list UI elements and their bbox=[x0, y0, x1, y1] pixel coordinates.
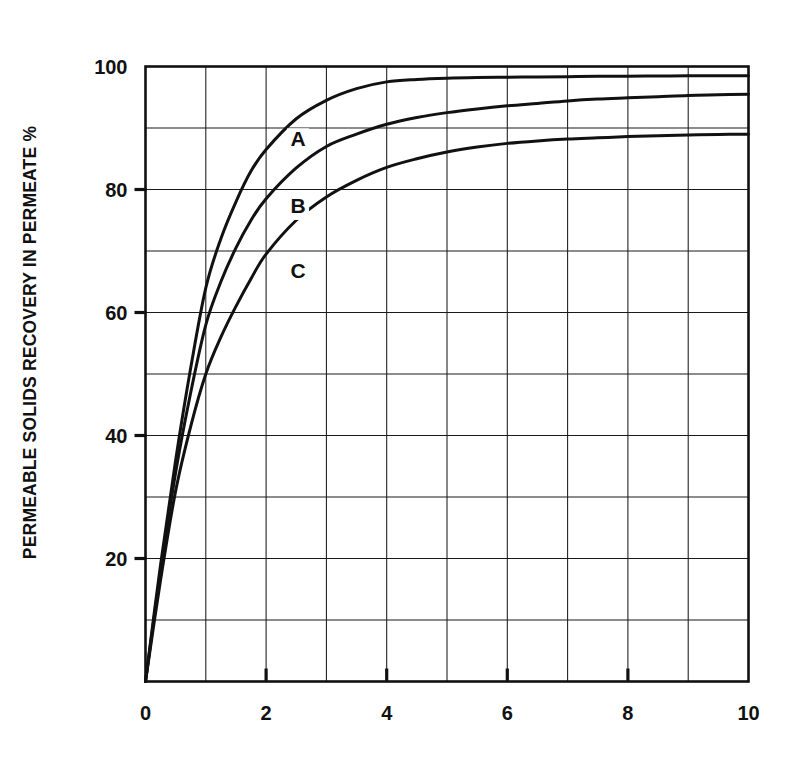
curve-label-c: C bbox=[290, 259, 305, 282]
x-tick-label: 2 bbox=[261, 702, 272, 724]
y-tick-label: 20 bbox=[105, 548, 127, 570]
chart-figure: PERMEABLE SOLIDS RECOVERY IN PERMEATE % … bbox=[0, 0, 792, 769]
x-tick-label: 10 bbox=[737, 702, 759, 724]
x-tick-label: 6 bbox=[502, 702, 513, 724]
x-tick-label: 4 bbox=[381, 702, 393, 724]
x-tick-label: 0 bbox=[140, 702, 151, 724]
y-axis-tick-labels: 20406080100 bbox=[94, 56, 127, 570]
line-chart-plot: ABC 20406080100 0246810 bbox=[0, 0, 792, 769]
curve-label-a: A bbox=[290, 127, 305, 150]
curve-label-b: B bbox=[290, 194, 305, 217]
x-tick-label: 8 bbox=[622, 702, 633, 724]
y-tick-label: 80 bbox=[105, 179, 127, 201]
x-axis-tick-labels: 0246810 bbox=[140, 702, 760, 724]
y-tick-label: 60 bbox=[105, 302, 127, 324]
y-tick-label: 100 bbox=[94, 56, 127, 78]
curve-labels: ABC bbox=[287, 127, 309, 285]
y-tick-label: 40 bbox=[105, 425, 127, 447]
